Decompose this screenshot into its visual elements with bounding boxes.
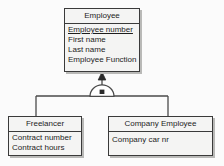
class-box-employee[interactable]: Employee Employee number First name Last… bbox=[64, 8, 140, 72]
attribute-row: Last name bbox=[68, 45, 136, 55]
class-name-freelancer: Freelancer bbox=[9, 117, 81, 132]
attribute-list-freelancer: Contract number Contract hours bbox=[9, 132, 81, 155]
class-box-company-employee[interactable]: Company Employee Company car nr bbox=[108, 116, 213, 156]
attribute-list-employee: Employee number First name Last name Emp… bbox=[65, 24, 139, 75]
class-name-company-employee: Company Employee bbox=[109, 117, 212, 132]
attribute-row: First name bbox=[68, 35, 136, 45]
attribute-row: Employee number bbox=[68, 25, 136, 35]
attribute-list-company-employee: Company car nr bbox=[109, 132, 212, 147]
attribute-row: Employee Function bbox=[68, 55, 136, 65]
disjoint-constraint-mark-icon bbox=[100, 90, 105, 94]
class-name-employee: Employee bbox=[65, 9, 139, 24]
attribute-row: Company car nr bbox=[112, 135, 209, 145]
class-box-freelancer[interactable]: Freelancer Contract number Contract hour… bbox=[8, 116, 82, 156]
attribute-row: Contract number bbox=[12, 133, 78, 143]
attribute-row: Contract hours bbox=[12, 143, 78, 153]
diagram-canvas: Employee Employee number First name Last… bbox=[0, 0, 224, 166]
